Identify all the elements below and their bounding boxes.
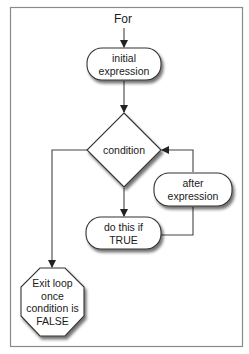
label-line: TRUE (86, 234, 161, 247)
label-line: expression (87, 65, 161, 78)
condition-label: condition (87, 144, 161, 157)
label-line: condition is (21, 302, 84, 315)
label-line: expression (154, 190, 232, 203)
label-line: initial (87, 52, 161, 65)
label-line: condition (87, 144, 161, 157)
label-line: FALSE (21, 315, 84, 328)
do-this-if-true-label: do this if TRUE (86, 221, 161, 246)
initial-expression-label: initial expression (87, 52, 161, 77)
after-expression-label: after expression (154, 177, 232, 202)
label-line: once (21, 290, 84, 303)
label-line: do this if (86, 221, 161, 234)
exit-loop-label: Exit loop once condition is FALSE (21, 277, 84, 327)
label-line: after (154, 177, 232, 190)
label-line: Exit loop (21, 277, 84, 290)
diagram-title: For (114, 12, 132, 26)
